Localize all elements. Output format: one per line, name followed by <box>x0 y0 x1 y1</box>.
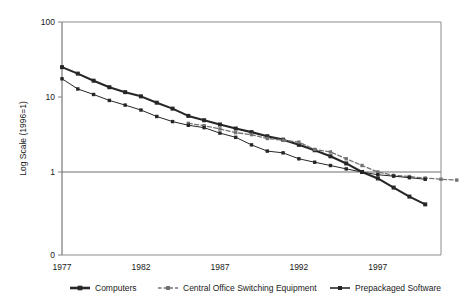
data-point-marker <box>313 148 316 151</box>
x-tick-group: 19771982198719921997 <box>53 262 388 272</box>
data-point-marker <box>155 115 158 118</box>
legend-marker-swatch <box>166 286 170 290</box>
data-point-marker <box>455 178 458 181</box>
legend-marker-swatch <box>338 286 342 290</box>
data-point-marker <box>123 103 126 106</box>
series-line <box>62 67 425 204</box>
x-tick-label: 1992 <box>289 262 308 272</box>
legend-item-1[interactable]: Computers <box>70 283 137 293</box>
data-point-marker <box>187 124 190 127</box>
y-tick-label: 0 <box>50 250 55 260</box>
chart-legend: ComputersCentral Office Switching Equipm… <box>70 283 441 293</box>
data-point-marker <box>345 167 348 170</box>
data-point-marker <box>439 178 442 181</box>
legend-marker-swatch <box>78 286 83 291</box>
x-tick-label: 1997 <box>368 262 387 272</box>
data-point-marker <box>281 151 284 154</box>
data-point-marker <box>250 143 253 146</box>
data-point-marker <box>92 93 95 96</box>
data-point-marker <box>234 131 237 134</box>
data-point-marker <box>376 173 379 176</box>
data-point-marker <box>234 127 238 131</box>
data-point-marker <box>297 140 300 143</box>
data-point-marker <box>202 118 206 122</box>
data-point-marker <box>139 94 143 98</box>
data-point-marker <box>423 202 427 206</box>
legend-label: Prepackaged Software <box>355 283 441 293</box>
data-point-marker <box>76 87 79 90</box>
y-axis-title: Log Scale (1996=1) <box>18 101 28 176</box>
data-point-marker <box>155 101 159 105</box>
data-point-marker <box>202 126 205 129</box>
x-tick-label: 1977 <box>53 262 72 272</box>
axes <box>62 22 441 255</box>
data-point-marker <box>108 99 111 102</box>
series-line <box>62 79 425 180</box>
data-point-marker <box>250 133 253 136</box>
data-point-marker <box>281 139 284 142</box>
data-point-marker <box>392 174 395 177</box>
data-point-marker <box>313 161 316 164</box>
data-point-marker <box>424 178 427 181</box>
data-point-marker <box>171 120 174 123</box>
data-point-marker <box>360 164 363 167</box>
data-point-marker <box>139 108 142 111</box>
legend-item-3[interactable]: Prepackaged Software <box>330 283 441 293</box>
x-tick-label: 1987 <box>210 262 229 272</box>
data-point-marker <box>407 195 411 199</box>
data-point-marker <box>345 157 348 160</box>
price-index-line-chart: 100101019771982198719921997Log Scale (19… <box>0 0 465 304</box>
data-point-marker <box>60 65 64 69</box>
data-point-marker <box>76 72 80 76</box>
legend-label: Computers <box>95 283 137 293</box>
data-point-marker <box>344 161 348 165</box>
legend-label: Central Office Switching Equipment <box>183 283 317 293</box>
data-point-marker <box>297 157 300 160</box>
data-point-marker <box>234 136 237 139</box>
data-point-marker <box>218 127 221 130</box>
data-point-marker <box>329 164 332 167</box>
data-point-marker <box>360 170 363 173</box>
y-tick-group: 1001010 <box>41 17 62 260</box>
data-point-marker <box>329 150 332 153</box>
data-point-marker <box>60 77 63 80</box>
data-point-marker <box>392 186 396 190</box>
x-tick-label: 1982 <box>131 262 150 272</box>
series-group <box>60 65 458 206</box>
legend-item-2[interactable]: Central Office Switching Equipment <box>158 283 317 293</box>
series-2 <box>187 122 459 182</box>
y-tick-label: 10 <box>46 92 56 102</box>
data-point-marker <box>171 107 175 111</box>
y-tick-label: 1 <box>50 167 55 177</box>
data-point-marker <box>408 176 411 179</box>
chart-figure: 100101019771982198719921997Log Scale (19… <box>0 0 465 304</box>
data-point-marker <box>376 176 380 180</box>
data-point-marker <box>186 114 190 118</box>
data-point-marker <box>218 131 221 134</box>
data-point-marker <box>123 90 127 94</box>
series-3 <box>60 77 427 181</box>
data-point-marker <box>266 149 269 152</box>
data-point-marker <box>92 79 96 83</box>
y-tick-label: 100 <box>41 17 55 27</box>
data-point-marker <box>266 137 269 140</box>
data-point-marker <box>107 85 111 89</box>
series-1 <box>60 65 427 206</box>
data-point-marker <box>218 122 222 126</box>
data-point-marker <box>328 154 332 158</box>
